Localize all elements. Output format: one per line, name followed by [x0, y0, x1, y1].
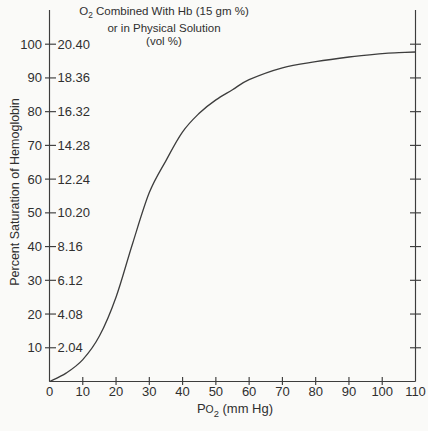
x-tick-label: 80	[308, 384, 322, 399]
chart-title-o2: O	[79, 5, 88, 17]
y-tick-label-vol: 16.32	[58, 104, 91, 119]
x-axis-title-p: P	[197, 401, 206, 416]
y-tick-label-vol: 4.08	[58, 307, 83, 322]
chart-title-line2: or in Physical Solution	[79, 22, 249, 35]
chart-title-line1-text: Combined With Hb (15 gm %)	[93, 5, 249, 17]
x-tick-label: 30	[142, 384, 156, 399]
plot-area: 102.04204.08306.12408.165010.206012.2470…	[0, 0, 428, 431]
x-tick-label: 20	[109, 384, 123, 399]
y-tick-label-percent: 80	[28, 104, 42, 119]
x-axis-title-units: (mm Hg)	[219, 401, 273, 416]
x-axis-title-o: O	[206, 404, 214, 415]
y-tick-label-percent: 20	[28, 307, 42, 322]
y-tick-label-percent: 90	[28, 70, 42, 85]
chart-title: O2 Combined With Hb (15 gm %) or in Phys…	[79, 5, 249, 48]
chart-title-line1: O2 Combined With Hb (15 gm %)	[79, 5, 249, 22]
y-tick-label-vol: 6.12	[58, 273, 83, 288]
y-tick-label-percent: 70	[28, 138, 42, 153]
x-tick-label: 110	[405, 384, 426, 399]
y-tick-label-vol: 18.36	[58, 70, 91, 85]
y-tick-label-percent: 60	[28, 172, 42, 187]
y-tick-label-vol: 12.24	[58, 172, 91, 187]
x-tick-label: 60	[242, 384, 256, 399]
x-tick-label: 50	[209, 384, 223, 399]
x-tick-label: 10	[76, 384, 90, 399]
figure-oxyhemoglobin-dissociation: 102.04204.08306.12408.165010.206012.2470…	[0, 0, 428, 431]
y-tick-label-percent: 30	[28, 273, 42, 288]
x-tick-label: 40	[175, 384, 189, 399]
oxyhemoglobin-curve	[50, 52, 416, 382]
y-tick-label-percent: 40	[28, 239, 42, 254]
y-tick-label-vol: 14.28	[58, 138, 91, 153]
x-tick-label: 100	[371, 384, 393, 399]
x-axis-title: PO2 (mm Hg)	[197, 401, 273, 419]
y-tick-label-vol: 8.16	[58, 239, 83, 254]
y-axis-title: Percent Saturation of Hemoglobin	[8, 98, 22, 286]
x-tick-label: 90	[342, 384, 356, 399]
x-tick-label: 0	[46, 384, 53, 399]
y-tick-label-percent: 50	[28, 205, 42, 220]
chart-title-line3: (vol %)	[79, 35, 249, 48]
y-tick-label-percent: 10	[28, 340, 42, 355]
y-tick-label-vol: 10.20	[58, 205, 91, 220]
x-tick-label: 70	[275, 384, 289, 399]
y-tick-label-percent: 100	[20, 37, 42, 52]
y-tick-label-vol: 2.04	[58, 340, 83, 355]
